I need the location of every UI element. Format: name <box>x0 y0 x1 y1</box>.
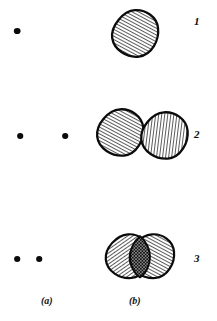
point-marker <box>62 133 68 139</box>
point-marker <box>14 28 21 34</box>
row-2-group <box>17 105 193 164</box>
column-label-b: (b) <box>129 296 141 306</box>
row-3-point-pattern <box>14 256 42 262</box>
column-label-a: (a) <box>41 296 53 306</box>
figure-canvas <box>0 0 217 321</box>
row-number-1: 1 <box>194 16 200 27</box>
row-number-3: 3 <box>194 253 200 264</box>
disc-hatched-right <box>137 108 193 164</box>
row-2-disc-pattern <box>93 105 193 164</box>
row-1-disc-pattern <box>108 6 164 62</box>
disc-hatched <box>108 6 164 62</box>
row-1-point-pattern <box>14 28 21 34</box>
row-number-2: 2 <box>194 129 200 140</box>
point-marker <box>36 256 42 262</box>
row-2-point-pattern <box>17 133 68 139</box>
row-3-disc-pattern <box>101 230 179 282</box>
row-3-group <box>14 230 179 282</box>
row-1-group <box>14 6 164 62</box>
point-marker <box>14 256 20 262</box>
point-marker <box>17 133 23 139</box>
